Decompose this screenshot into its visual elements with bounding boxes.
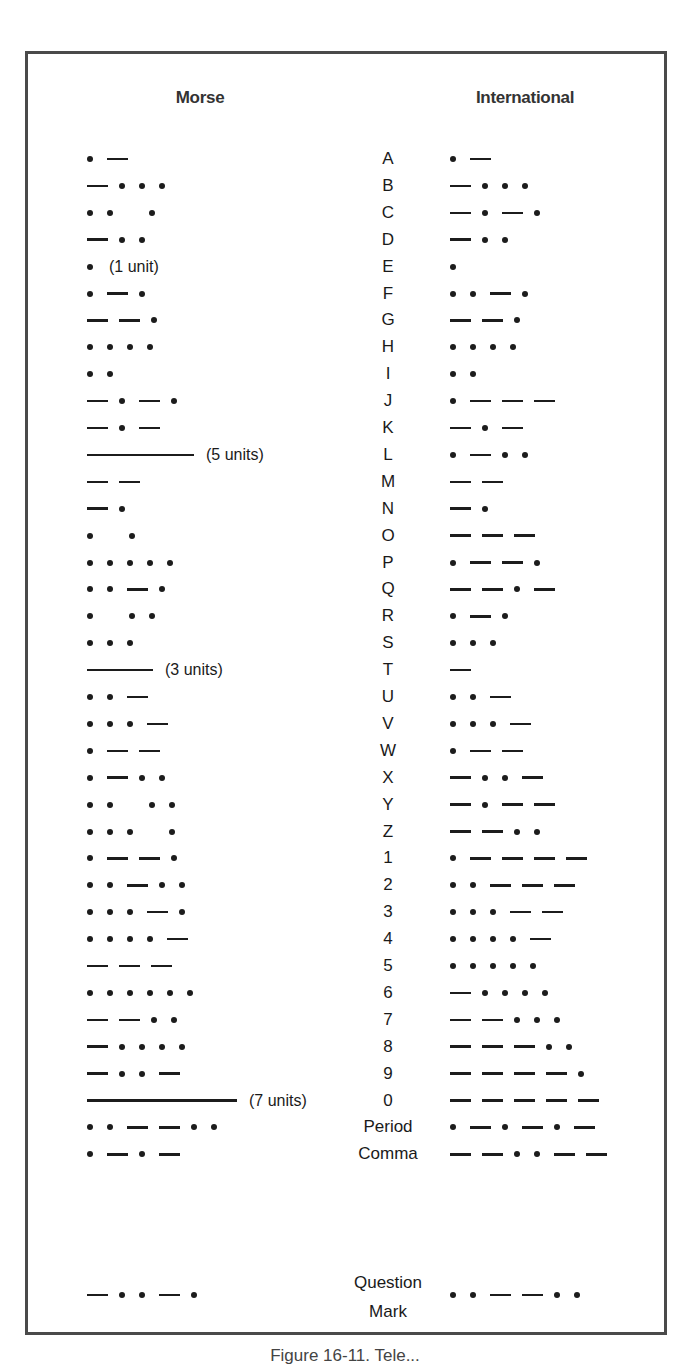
international-morse-code <box>450 496 502 522</box>
dot-symbol <box>450 156 456 162</box>
character-label: Period <box>363 1114 412 1140</box>
international-morse-code <box>450 469 514 495</box>
international-morse-code <box>450 872 586 898</box>
dash-symbol <box>450 319 471 322</box>
dot-symbol <box>107 1124 113 1130</box>
american-morse-code <box>87 819 189 845</box>
dash-symbol <box>482 1045 503 1048</box>
dash-symbol <box>87 481 108 484</box>
dash-symbol <box>514 1099 535 1102</box>
dot-symbol <box>127 721 133 727</box>
dot-symbol <box>119 1292 125 1298</box>
dash-symbol <box>450 669 471 672</box>
dot-symbol <box>482 237 488 243</box>
dot-symbol <box>107 344 113 350</box>
unit-note: (1 unit) <box>109 258 159 276</box>
letter-space <box>127 212 149 214</box>
dot-symbol <box>127 829 133 835</box>
dot-symbol <box>482 506 488 512</box>
dot-symbol <box>191 1124 197 1130</box>
dash-symbol <box>87 238 108 241</box>
code-row: (3 units)T <box>0 657 691 683</box>
dot-symbol <box>530 963 536 969</box>
code-row: 2 <box>0 872 691 898</box>
dot-symbol <box>107 210 113 216</box>
dot-symbol <box>490 936 496 942</box>
dash-symbol <box>159 1294 180 1297</box>
unit-note: (5 units) <box>206 446 264 464</box>
american-morse-code <box>87 576 179 602</box>
dot-symbol <box>87 909 93 915</box>
dot-symbol <box>482 425 488 431</box>
international-morse-code <box>450 576 566 602</box>
dot-symbol <box>87 344 93 350</box>
dot-symbol <box>87 1151 93 1157</box>
character-label: K <box>382 415 393 441</box>
dash-symbol <box>450 427 471 430</box>
dot-symbol <box>179 882 185 888</box>
character-label: F <box>383 281 393 307</box>
dash-symbol <box>450 212 471 215</box>
character-label: Comma <box>358 1141 418 1167</box>
dot-symbol <box>107 882 113 888</box>
dot-symbol <box>450 291 456 297</box>
letter-space <box>107 535 129 537</box>
american-morse-code <box>87 1282 211 1308</box>
dot-symbol <box>87 990 93 996</box>
international-morse-code <box>450 173 542 199</box>
dash-symbol <box>450 992 471 995</box>
dot-symbol <box>522 291 528 297</box>
dash-symbol <box>534 803 555 806</box>
dot-symbol <box>510 936 516 942</box>
dot-symbol <box>87 721 93 727</box>
dot-symbol <box>554 1292 560 1298</box>
dash-symbol <box>482 1072 503 1075</box>
dash-symbol <box>502 803 523 806</box>
dash-symbol <box>470 750 491 753</box>
international-morse-code <box>450 819 554 845</box>
american-morse-code <box>87 630 147 656</box>
code-row: C <box>0 200 691 226</box>
dot-symbol <box>87 775 93 781</box>
american-morse-code: (7 units) <box>87 1088 307 1114</box>
dash-symbol <box>470 454 491 457</box>
code-row: QuestionMark <box>0 1282 691 1308</box>
international-morse-code <box>450 738 534 764</box>
dot-symbol <box>482 210 488 216</box>
american-morse-code <box>87 173 179 199</box>
dot-symbol <box>522 183 528 189</box>
character-label: I <box>386 361 391 387</box>
dash-symbol <box>107 857 128 860</box>
dot-symbol <box>107 829 113 835</box>
dot-symbol <box>546 1044 552 1050</box>
dash-symbol <box>502 427 523 430</box>
international-morse-code <box>450 281 542 307</box>
character-label: J <box>384 388 393 414</box>
dash-symbol <box>87 965 108 968</box>
dash-symbol <box>139 427 160 430</box>
dash-symbol <box>159 1072 180 1075</box>
dot-symbol <box>159 1044 165 1050</box>
label-line: Mark <box>354 1297 422 1326</box>
dash-symbol <box>450 803 471 806</box>
dash-symbol <box>502 750 523 753</box>
dot-symbol <box>149 210 155 216</box>
dash-symbol <box>87 1045 108 1048</box>
character-label: S <box>382 630 393 656</box>
dot-symbol <box>514 586 520 592</box>
dot-symbol <box>187 990 193 996</box>
dot-symbol <box>87 156 93 162</box>
american-morse-code <box>87 1061 191 1087</box>
character-label: G <box>381 307 394 333</box>
character-label: E <box>382 254 393 280</box>
dot-symbol <box>534 560 540 566</box>
international-morse-code <box>450 442 542 468</box>
dash-symbol <box>450 238 471 241</box>
code-row: J <box>0 388 691 414</box>
dot-symbol <box>450 640 456 646</box>
dot-symbol <box>470 694 476 700</box>
american-morse-code <box>87 926 199 952</box>
dash-symbol <box>450 1045 471 1048</box>
american-morse-code <box>87 738 171 764</box>
dash-symbol <box>450 1072 471 1075</box>
